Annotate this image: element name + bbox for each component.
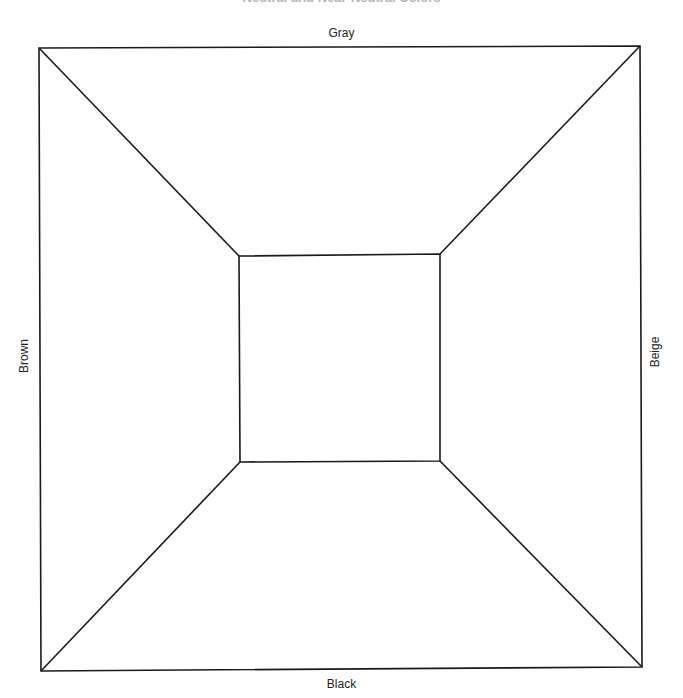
label-brown: Brown — [17, 339, 31, 373]
label-beige: Beige — [648, 337, 662, 368]
diagonal-bottom-left — [41, 462, 240, 671]
inner-square — [239, 254, 440, 462]
label-gray: Gray — [0, 26, 683, 40]
diagonal-top-right — [440, 46, 640, 254]
label-black: Black — [0, 677, 683, 691]
diagonal-top-left — [39, 48, 239, 256]
diagonal-bottom-right — [440, 461, 642, 667]
frustum-diagram — [0, 0, 683, 698]
